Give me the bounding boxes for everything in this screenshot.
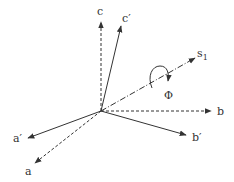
label-b-prime: b′ <box>192 131 202 144</box>
axis-a <box>35 111 101 163</box>
label-s: s1 <box>197 47 208 62</box>
label-a-prime: a′ <box>13 132 23 145</box>
label-c-prime: c′ <box>122 12 131 25</box>
label-b: b <box>217 105 224 118</box>
rotation-diagram: c c′ s1 Φ b b′ a′ a <box>0 0 234 182</box>
axis-a-prime <box>28 111 101 138</box>
axis-c-prime <box>101 26 121 111</box>
label-phi: Φ <box>164 89 173 102</box>
axis-b-prime <box>101 111 186 135</box>
label-a: a <box>25 165 32 178</box>
rotation-arrow-icon <box>150 66 168 88</box>
axis-s1 <box>101 58 195 111</box>
label-c: c <box>97 5 103 18</box>
